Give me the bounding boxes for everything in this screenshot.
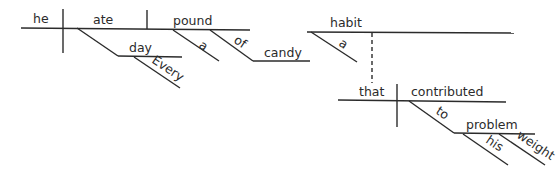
main-baseline: [21, 28, 250, 30]
word-prep-object: candy: [264, 45, 302, 60]
word-preposition: of: [231, 32, 250, 52]
word-verb: ate: [93, 12, 114, 27]
habit-article-slant: [311, 32, 357, 62]
word-noun-modifier: weight: [514, 127, 557, 163]
word-object: pound: [173, 13, 212, 28]
adverbial-slant: [77, 28, 118, 56]
habit-baseline: [307, 32, 514, 33]
word-object-article: a: [196, 37, 211, 54]
word-adverbial-noun: day: [129, 40, 153, 55]
word-relative-verb: contributed: [411, 84, 483, 99]
word-relative-pronoun: that: [359, 84, 384, 99]
preposition-slant: [210, 30, 253, 61]
relative-baseline: [338, 100, 506, 102]
word-appositive-head: habit: [330, 15, 362, 30]
word-subject: he: [33, 11, 49, 26]
word-relative-prep-object: problem: [466, 117, 518, 132]
adverbial-baseline: [118, 56, 182, 57]
sentence-diagram: he ate pound day Every a of candy habit …: [0, 0, 559, 179]
